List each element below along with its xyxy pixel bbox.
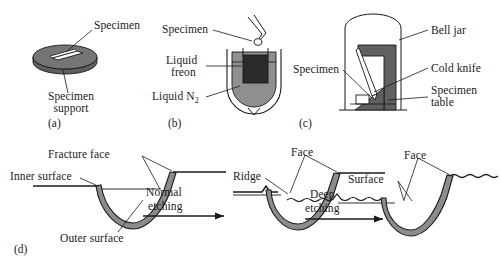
label-d3-surface: Surface	[348, 173, 384, 186]
label-deep-etching-line1: Deep	[310, 188, 335, 201]
label-d1-inner-surface: Inner surface	[10, 170, 72, 183]
label-d1-outer-surface: Outer surface	[60, 232, 124, 245]
label-b-nitrogen: Liquid N2	[152, 90, 199, 108]
specimen-block	[356, 95, 369, 104]
label-normal-etching-line2: etching	[148, 200, 183, 213]
stage3-right-etched-surface	[450, 175, 498, 178]
label-c-specimen-table-line2: table	[431, 96, 454, 109]
tweezer-arm-left	[248, 17, 262, 34]
figure-container: Specimen Specimen support (a) Specimen L…	[0, 0, 501, 266]
tweezer-arm-right	[254, 15, 266, 33]
leader-d1-inner-surface	[80, 178, 98, 186]
panel-label-b: (b)	[168, 117, 181, 129]
specimen-in-tweezers	[254, 39, 262, 46]
label-d1-fracture-face: Fracture face	[48, 148, 110, 161]
panel-label-a: (a)	[48, 117, 61, 129]
panel-b-graphic	[206, 15, 281, 115]
label-c-specimen: Specimen	[293, 63, 339, 76]
label-b-nitrogen-subscript: 2	[195, 96, 199, 105]
deep-etching-arrow-head	[374, 216, 383, 223]
label-a-specimen: Specimen	[94, 19, 140, 32]
panel-label-d: (d)	[14, 243, 27, 255]
leader-d3-face-b	[404, 158, 418, 200]
label-d2-face: Face	[291, 146, 313, 159]
normal-etching-arrow-head	[215, 213, 224, 220]
label-d3-face: Face	[404, 149, 426, 162]
stage-2-graphic	[233, 155, 385, 230]
label-c-cold-knife: Cold knife	[431, 62, 481, 75]
label-d2-ridge: Ridge	[233, 170, 261, 183]
panel-a-graphic	[33, 30, 97, 93]
leader-d3-surface-a	[398, 181, 404, 201]
liquid-freon-fill	[243, 55, 268, 83]
label-c-specimen-table-line1: Specimen	[431, 84, 477, 97]
panel-c-graphic	[339, 14, 428, 110]
label-b-nitrogen-text: Liquid N	[152, 90, 195, 102]
label-deep-etching-line2: etching	[305, 202, 340, 215]
label-c-bell-jar: Bell jar	[431, 24, 466, 37]
label-b-freon-line1: Liquid	[166, 54, 197, 67]
label-a-support-line2: support	[36, 102, 106, 115]
label-a-support-line1: Specimen	[36, 90, 106, 103]
leader-d2-face-b	[290, 155, 305, 193]
label-b-freon-line2: freon	[171, 66, 196, 79]
stage-1-graphic	[33, 156, 226, 232]
panel-label-c: (c)	[299, 117, 312, 129]
stage3-membrane	[381, 175, 453, 236]
diagram-canvas	[0, 0, 501, 266]
label-normal-etching-line1: Normal	[146, 186, 182, 199]
leader-d1-fracture-face-b	[142, 156, 160, 189]
leader-c-bell-jar	[399, 30, 428, 40]
label-b-specimen: Specimen	[162, 23, 208, 36]
leader-b-specimen	[213, 30, 252, 41]
